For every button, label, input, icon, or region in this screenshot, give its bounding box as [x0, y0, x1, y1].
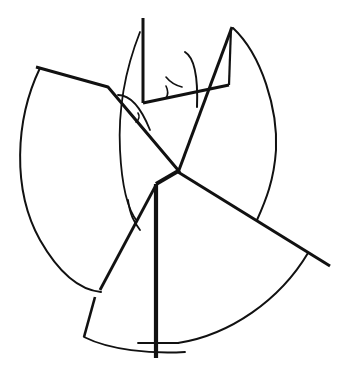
- geometry-figure: [0, 0, 350, 378]
- figure-background: [0, 0, 350, 378]
- figure-svg: [0, 0, 350, 378]
